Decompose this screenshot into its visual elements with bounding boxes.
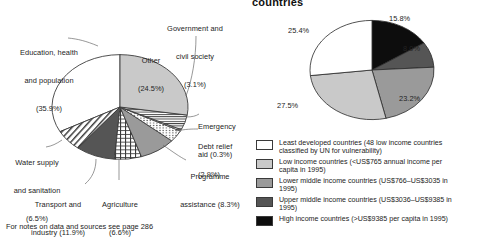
slice-least-developed xyxy=(310,20,372,75)
pct-lower-middle-income: 23.2% xyxy=(399,94,420,103)
legend-item-high-income: High income countries (>US$9385 per capi… xyxy=(256,215,484,226)
label-government-civil-society: Government and civil society (3.1%) xyxy=(152,6,238,107)
legend-label-lower-middle-income: Lower middle income countries (US$766–US… xyxy=(279,177,484,194)
legend-item-upper-middle-income: Upper middle income countries (US$3036–U… xyxy=(256,196,484,213)
legend: Least developed countries (48 low income… xyxy=(256,139,484,228)
legend-swatch-low-income xyxy=(256,159,273,169)
right-pie-chart xyxy=(290,12,460,130)
legend-label-upper-middle-income: Upper middle income countries (US$3036–U… xyxy=(279,196,484,213)
pct-upper-middle-income: 8.0% xyxy=(403,44,420,53)
pct-low-income: 27.5% xyxy=(277,101,298,110)
legend-swatch-lower-middle-income xyxy=(256,178,273,188)
pct-least-developed: 25.4% xyxy=(288,26,309,35)
pct-high-income: 15.8% xyxy=(389,14,410,23)
footnote: For notes on data and sources see page 2… xyxy=(6,222,153,231)
legend-swatch-upper-middle-income xyxy=(256,197,273,207)
legend-label-least-developed: Least developed countries (48 low income… xyxy=(279,139,484,156)
label-agriculture: Agriculture (6.6%) xyxy=(92,182,148,249)
leader-transport xyxy=(85,159,96,184)
legend-item-least-developed: Least developed countries (48 low income… xyxy=(256,139,484,156)
label-programme-assistance: Programme assistance (8.3%) xyxy=(168,154,252,228)
legend-item-lower-middle-income: Lower middle income countries (US$766–US… xyxy=(256,177,484,194)
legend-label-high-income: High income countries (>US$9385 per capi… xyxy=(279,215,484,223)
label-education: Education, health and population (35.9%) xyxy=(2,30,96,131)
figure-root: countries xyxy=(0,0,488,249)
legend-label-low-income: Low income countries (<US$765 annual inc… xyxy=(279,158,484,175)
legend-item-low-income: Low income countries (<US$765 annual inc… xyxy=(256,158,484,175)
legend-swatch-high-income xyxy=(256,216,273,226)
legend-swatch-least-developed xyxy=(256,140,273,150)
